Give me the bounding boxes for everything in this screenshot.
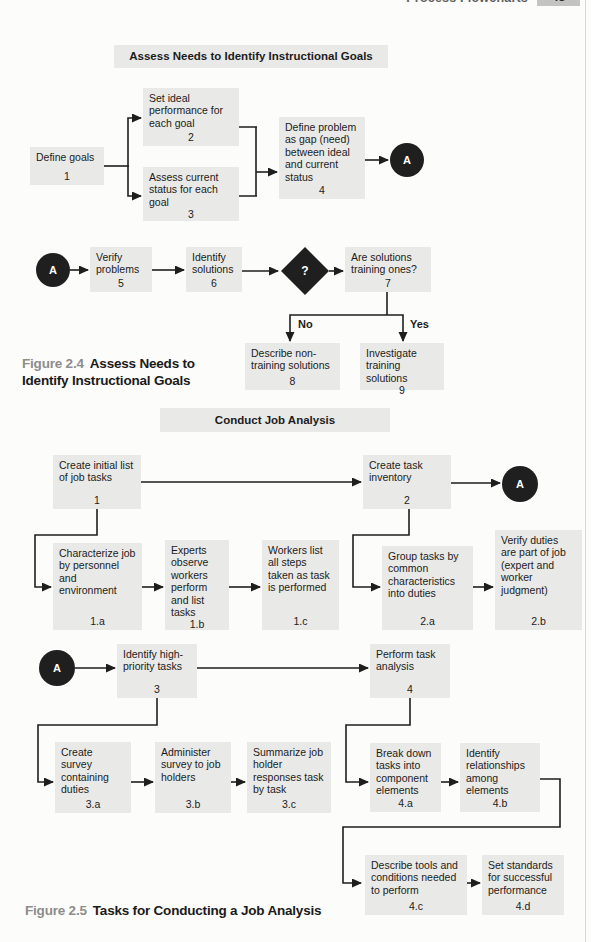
connector-a-label: A bbox=[516, 478, 524, 490]
flow-step-job-3c: Summarize job holder responses task by t… bbox=[247, 742, 331, 813]
flow-step-4: Define problem as gap (need) between ide… bbox=[279, 117, 365, 199]
flow-step-1: Define goals 1 bbox=[30, 147, 104, 185]
flow-step-text: Break down tasks into component elements bbox=[376, 747, 435, 797]
flow-step-text: Identify solutions bbox=[192, 251, 236, 276]
flow-step-text: Workers list all steps taken as task is … bbox=[268, 544, 333, 594]
flow-step-text: Create survey containing duties bbox=[61, 746, 125, 796]
flow-step-text: Identify high-priority tasks bbox=[123, 648, 191, 673]
flow-step-text: Assess current status for each goal bbox=[149, 171, 233, 208]
connector-a-circle: A bbox=[39, 650, 75, 686]
flow-step-text: Verify problems bbox=[96, 251, 146, 276]
flow-step-number: 3.c bbox=[253, 798, 325, 810]
flow-step-number: 1.a bbox=[59, 615, 136, 627]
fig25-caption-label: Figure 2.5 bbox=[25, 903, 93, 918]
flow-step-number: 4.a bbox=[376, 797, 435, 809]
flow-step-6: Identify solutions 6 bbox=[186, 247, 242, 292]
flow-step-job-4d: Set standards for successful performance… bbox=[482, 855, 564, 915]
flow-step-9: Investigate training solutions 9 bbox=[360, 343, 444, 390]
flow-step-text: Set standards for successful performance bbox=[488, 859, 558, 896]
fig24-caption-label: Figure 2.4 bbox=[22, 356, 90, 371]
flow-step-text: Define problem as gap (need) between ide… bbox=[285, 121, 359, 183]
flow-step-number: 4.d bbox=[488, 900, 558, 912]
flow-step-job-2b: Verify duties are part of job (expert an… bbox=[495, 530, 582, 630]
connector-a-label: A bbox=[53, 662, 61, 674]
flow-step-number: 2.a bbox=[388, 615, 467, 627]
connector-a-label: A bbox=[403, 154, 411, 166]
flow-step-number: 3.b bbox=[161, 798, 225, 810]
flow-step-text: Set ideal performance for each goal bbox=[149, 92, 233, 129]
fig25-caption: Figure 2.5Tasks for Conducting a Job Ana… bbox=[25, 903, 445, 920]
flow-step-number: 6 bbox=[192, 277, 236, 289]
book-page: Process Flowcharts 43 bbox=[0, 0, 591, 942]
flow-step-number: 4.b bbox=[466, 797, 534, 809]
flow-step-text: Experts observe workers perform and list… bbox=[171, 544, 223, 618]
flow-step-7: Are solutions training ones? 7 bbox=[345, 247, 431, 292]
branch-label-yes: Yes bbox=[410, 318, 429, 330]
flow-step-number: 4 bbox=[376, 683, 444, 695]
flow-step-number: 1.c bbox=[268, 615, 333, 627]
flow-step-text: Create task inventory bbox=[369, 459, 445, 484]
flow-step-text: Describe non-training solutions bbox=[251, 347, 334, 372]
flow-step-text: Summarize job holder responses task by t… bbox=[253, 746, 325, 796]
flow-step-number: 8 bbox=[251, 375, 334, 387]
fig25-title: Conduct Job Analysis bbox=[160, 408, 390, 432]
flow-step-text: Verify duties are part of job (expert an… bbox=[501, 534, 576, 596]
fig24-title: Assess Needs to Identify Instructional G… bbox=[114, 45, 388, 68]
flow-step-job-1: Create initial list of job tasks 1 bbox=[53, 455, 141, 509]
flow-step-number: 3 bbox=[149, 208, 233, 220]
question-mark-label: ? bbox=[293, 264, 317, 278]
flow-step-5: Verify problems 5 bbox=[90, 247, 152, 292]
branch-label-no: No bbox=[298, 318, 313, 330]
flow-step-job-2: Create task inventory 2 bbox=[363, 455, 451, 509]
flow-step-job-4a: Break down tasks into component elements… bbox=[370, 743, 441, 812]
flow-step-number: 4 bbox=[285, 184, 359, 196]
flow-step-job-3: Identify high-priority tasks 3 bbox=[117, 644, 197, 698]
flow-step-job-1b: Experts observe workers perform and list… bbox=[165, 540, 229, 630]
flow-step-number: 3.a bbox=[61, 798, 125, 810]
flow-step-job-2a: Group tasks by common characteristics in… bbox=[382, 546, 473, 630]
flow-step-text: Investigate training solutions bbox=[366, 347, 438, 384]
fig24-caption: Figure 2.4Assess Needs to Identify Instr… bbox=[22, 356, 230, 389]
flow-step-text: Describe tools and conditions needed to … bbox=[371, 859, 461, 896]
connector-a-circle: A bbox=[36, 253, 70, 287]
flow-step-text: Are solutions training ones? bbox=[351, 251, 425, 276]
flow-step-job-4b: Identify relationships among elements 4.… bbox=[460, 743, 540, 812]
flow-step-text: Perform task analysis bbox=[376, 648, 444, 673]
connector-a-circle: A bbox=[502, 466, 538, 502]
flow-step-number: 1 bbox=[59, 494, 135, 506]
flow-step-text: Define goals bbox=[36, 151, 98, 163]
flow-step-number: 5 bbox=[96, 277, 146, 289]
flow-step-number: 3 bbox=[123, 683, 191, 695]
flow-step-job-1c: Workers list all steps taken as task is … bbox=[262, 540, 339, 630]
flow-step-text: Administer survey to job holders bbox=[161, 746, 225, 783]
flow-step-job-3a: Create survey containing duties 3.a bbox=[55, 742, 131, 813]
connector-a-circle: A bbox=[390, 143, 424, 177]
flow-step-text: Characterize job by personnel and enviro… bbox=[59, 547, 136, 597]
flow-step-number: 1.b bbox=[171, 618, 223, 630]
connector-a-label: A bbox=[49, 264, 57, 276]
flow-step-job-4: Perform task analysis 4 bbox=[370, 644, 450, 698]
flow-step-number: 1 bbox=[36, 170, 98, 182]
flow-step-number: 2 bbox=[369, 494, 445, 506]
flow-step-job-3b: Administer survey to job holders 3.b bbox=[155, 742, 231, 813]
fig25-caption-text: Tasks for Conducting a Job Analysis bbox=[93, 903, 322, 918]
flow-step-3: Assess current status for each goal 3 bbox=[143, 167, 239, 221]
flow-step-job-1a: Characterize job by personnel and enviro… bbox=[53, 543, 142, 630]
flow-step-number: 7 bbox=[351, 277, 425, 289]
flow-step-text: Create initial list of job tasks bbox=[59, 459, 135, 484]
flow-step-number: 2.b bbox=[501, 615, 576, 627]
flow-step-text: Identify relationships among elements bbox=[466, 747, 534, 797]
flow-step-8: Describe non-training solutions 8 bbox=[245, 343, 340, 390]
flow-step-text: Group tasks by common characteristics in… bbox=[388, 550, 467, 600]
flow-step-number: 2 bbox=[149, 131, 233, 143]
flow-step-number: 9 bbox=[366, 384, 438, 396]
flow-step-2: Set ideal performance for each goal 2 bbox=[143, 88, 239, 146]
